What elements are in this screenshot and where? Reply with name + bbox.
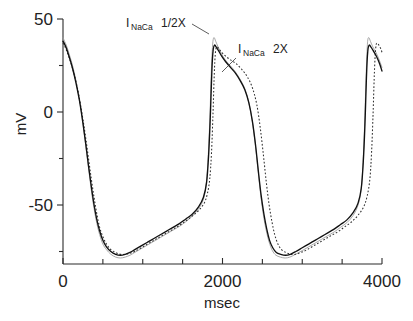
annotation-half: I NaCa 1/2X [126,16,209,34]
x-tick-label: 4000 [363,272,401,291]
y-tick-label: -50 [28,196,53,215]
x-tick-label: 2000 [204,272,242,291]
y-tick-label-group: 500-50 [28,10,53,215]
trace-i-naca-2x [63,43,382,254]
annotation-half-prefix: I [126,16,129,30]
y-axis-title: mV [12,113,29,136]
trace-group [63,38,382,258]
chart-canvas: 500-50 020004000 mV msec I NaCa 1/2X I N… [0,0,413,321]
annotation-two-prefix: I [238,42,241,56]
annotation-half-suffix: 1/2X [161,16,186,30]
trace-i-naca-1/2x [63,38,382,258]
y-tick-group [57,19,63,252]
annotation-group: I NaCa 1/2X I NaCa 2X [126,16,288,72]
annotation-two-suffix: 2X [273,42,288,56]
x-tick-label: 0 [58,272,67,291]
y-tick-label: 50 [34,10,53,29]
x-axis-title: msec [204,294,240,311]
annotation-half-leader [192,24,209,34]
annotation-half-subscript: NaCa [131,22,153,32]
x-tick-label-group: 020004000 [58,272,401,291]
action-potential-figure: 500-50 020004000 mV msec I NaCa 1/2X I N… [0,0,413,321]
annotation-two-subscript: NaCa [243,48,265,58]
y-tick-label: 0 [44,103,53,122]
trace-control [63,41,382,255]
x-tick-group [63,258,382,264]
